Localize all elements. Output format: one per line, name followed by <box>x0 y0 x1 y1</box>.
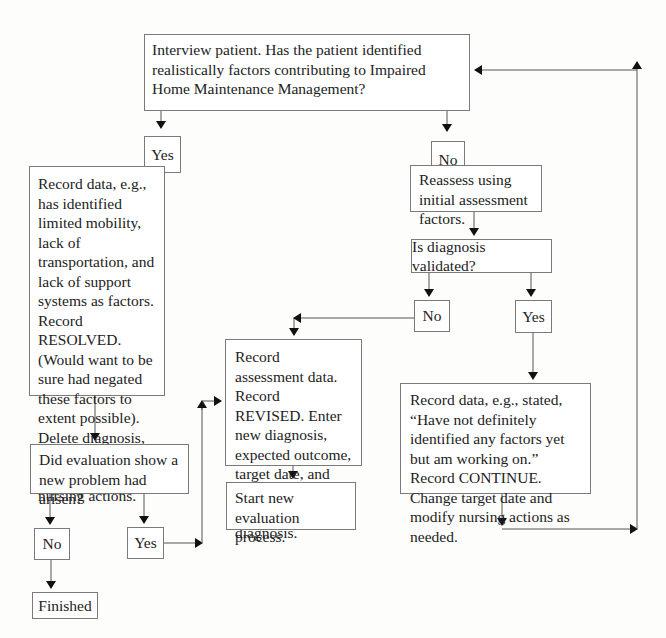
node-record-continue: Record data, e.g., stated, “Have not def… <box>400 383 591 494</box>
node-reassess: Reassess using initial assessment factor… <box>410 165 542 212</box>
node-no-bottom: No <box>34 528 70 560</box>
node-start-new: Start new evaluation process. <box>226 482 356 530</box>
node-record-revised: Record assessment data. Record REVISED. … <box>225 339 362 466</box>
flowchart-canvas: Interview patient. Has the patient ident… <box>0 0 666 638</box>
node-yes-bottom: Yes <box>127 527 164 559</box>
node-finished: Finished <box>32 592 98 619</box>
node-record-resolved: Record data, e.g., has identified limite… <box>29 166 165 396</box>
node-did-evaluation: Did evaluation show a new problem had ar… <box>30 444 189 494</box>
node-no-mid: No <box>414 300 450 332</box>
node-is-validated: Is diagnosis validated? <box>411 239 552 273</box>
node-interview: Interview patient. Has the patient ident… <box>144 34 470 111</box>
node-yes-mid: Yes <box>515 300 552 333</box>
